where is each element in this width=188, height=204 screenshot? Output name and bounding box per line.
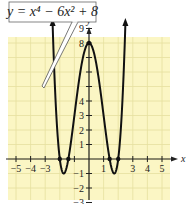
x-tick-label: 1 (101, 163, 106, 174)
x-tick-label: 3 (130, 163, 135, 174)
marked-point (58, 157, 62, 161)
y-tick-label: 1 (79, 139, 84, 150)
y-tick-label: 8 (79, 38, 84, 49)
marked-point (66, 157, 70, 161)
y-tick-label: 4 (79, 96, 84, 107)
x-axis-label: x (180, 153, 186, 164)
function-graph: xy −5−4−3134510984321−1−2−3 y = x⁴ − 6x²… (0, 0, 188, 204)
x-tick-label: −5 (11, 163, 22, 174)
marked-point (107, 157, 111, 161)
y-tick-label: −2 (73, 183, 84, 194)
x-tick-label: −3 (40, 163, 51, 174)
y-tick-label: 2 (79, 125, 84, 136)
x-tick-label: 5 (160, 163, 165, 174)
y-tick-label: 9 (79, 23, 84, 34)
x-tick-label: −4 (25, 163, 36, 174)
x-tick-label: 4 (145, 163, 150, 174)
x-axis-arrow-icon (171, 157, 178, 162)
curve-arrow-icon (122, 18, 128, 26)
equation-label: y = x⁴ − 6x² + 8 (5, 4, 98, 19)
y-tick-label: 3 (79, 110, 84, 121)
marked-point (87, 41, 91, 45)
marked-point (116, 157, 120, 161)
y-tick-label: −1 (73, 168, 84, 179)
y-tick-label: −3 (73, 197, 84, 204)
